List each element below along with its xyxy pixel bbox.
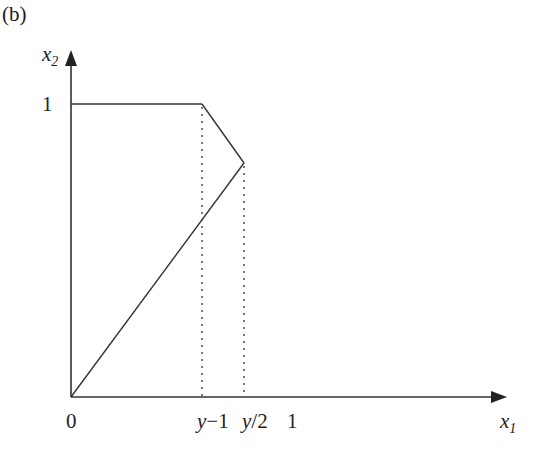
x-tick-0: 0	[66, 409, 77, 433]
x-tick-y-minus-1: y−1	[195, 409, 229, 433]
x-axis-label: x1	[499, 409, 516, 436]
x-axis-arrow-icon	[491, 391, 507, 403]
y-axis-arrow-icon	[65, 50, 77, 66]
x-tick-1: 1	[287, 409, 298, 433]
panel-label: (b)	[2, 2, 27, 26]
y-axis-label: x2	[41, 42, 58, 69]
diagram-canvas: (b) x2 x1 1 0 y−1 y/2 1	[0, 0, 536, 449]
dotted-guides	[202, 107, 244, 397]
x-tick-y-over-2: y/2	[240, 409, 268, 433]
upper-diagonal-edge	[202, 104, 244, 163]
y-tick-1: 1	[42, 92, 53, 116]
lower-diagonal-edge	[71, 163, 244, 397]
region-boundary	[71, 104, 244, 397]
